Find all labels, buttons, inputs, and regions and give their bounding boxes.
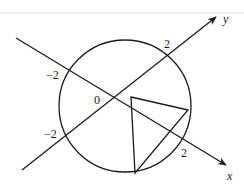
- origin-label: 0: [94, 93, 100, 107]
- y-tick-negative: −2: [44, 127, 57, 141]
- x-tick-negative: −2: [46, 68, 59, 82]
- x-axis-label: x: [226, 169, 233, 183]
- x-tick-positive: 2: [181, 146, 187, 160]
- y-tick-positive: 2: [164, 37, 170, 51]
- x-axis: [16, 38, 226, 165]
- coordinate-diagram: y x 2 −2 0 −2 2: [0, 0, 244, 190]
- y-axis-label: y: [222, 12, 229, 26]
